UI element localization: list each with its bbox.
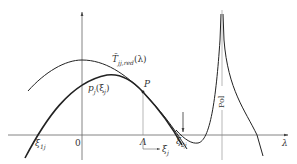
curve-upper-t-red xyxy=(28,60,187,149)
diagram: T̄jj,red(λ) pj(ξj) P 0 Λ ξ1j ξ2j ξj Pol … xyxy=(0,0,297,164)
label-lambda-cap: Λ xyxy=(140,138,147,147)
label-xi-left-sub: 1j xyxy=(40,143,46,150)
label-p-arg: (ξ xyxy=(96,83,104,93)
point-p xyxy=(142,91,145,94)
label-pole: Pol xyxy=(218,96,226,108)
label-xi-right-sub: 2j xyxy=(181,141,187,148)
label-t-sub: jj,red xyxy=(118,59,134,66)
label-xi-1j: ξ1j xyxy=(35,139,46,150)
label-point-p: P xyxy=(144,80,150,89)
label-curve-upper: T̄jj,red(λ) xyxy=(112,55,147,66)
label-p-close: ) xyxy=(106,83,110,93)
label-xi-j: ξj xyxy=(162,145,169,156)
label-origin: 0 xyxy=(75,139,81,148)
label-t-arg: (λ) xyxy=(134,54,147,64)
label-xi-j-sub: j xyxy=(167,149,169,156)
label-xi-2j: ξ2j xyxy=(176,137,187,148)
label-x-axis-lambda: λ xyxy=(282,139,288,148)
label-curve-lower: pj(ξj) xyxy=(88,84,110,95)
